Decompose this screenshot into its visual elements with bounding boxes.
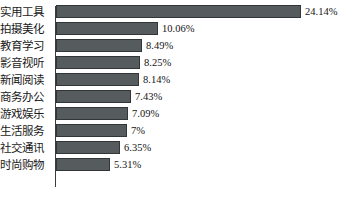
bar xyxy=(56,22,158,35)
bar-value-label: 24.14% xyxy=(305,4,337,19)
plot-area: 实用工具 24.14% 拍摄美化 10.06% 教育学习 8.49% 影音视听 xyxy=(0,4,342,192)
bar-container: 8.49% xyxy=(56,39,342,53)
bar-container: 7.09% xyxy=(56,107,342,121)
bar-container: 7% xyxy=(56,124,342,138)
bar-value-label: 7.43% xyxy=(135,89,162,104)
category-label: 时尚购物 xyxy=(0,157,51,174)
bar-row: 生活服务 7% xyxy=(0,123,342,140)
bar xyxy=(56,39,142,52)
bar-value-label: 8.25% xyxy=(144,55,171,70)
bar-container: 24.14% xyxy=(56,5,342,19)
bar-value-label: 5.31% xyxy=(114,157,141,172)
bar xyxy=(56,73,139,86)
bar-container: 8.14% xyxy=(56,73,342,87)
bar-container: 7.43% xyxy=(56,90,342,104)
category-label: 拍摄美化 xyxy=(0,21,51,38)
bar-value-label: 7% xyxy=(131,123,145,138)
bar-container: 10.06% xyxy=(56,22,342,36)
bar-row: 商务办公 7.43% xyxy=(0,89,342,106)
bar xyxy=(56,141,120,154)
bar xyxy=(56,158,110,171)
category-label: 新闻阅读 xyxy=(0,72,51,89)
bar xyxy=(56,5,301,18)
bar-row: 游戏娱乐 7.09% xyxy=(0,106,342,123)
bar-value-label: 7.09% xyxy=(132,106,159,121)
bar xyxy=(56,124,127,137)
category-label: 实用工具 xyxy=(0,4,51,21)
bar xyxy=(56,90,131,103)
bar-row: 社交通讯 6.35% xyxy=(0,140,342,157)
bar-row: 新闻阅读 8.14% xyxy=(0,72,342,89)
horizontal-bar-chart: 实用工具 24.14% 拍摄美化 10.06% 教育学习 8.49% 影音视听 xyxy=(0,0,342,200)
category-label: 游戏娱乐 xyxy=(0,106,51,123)
category-label: 商务办公 xyxy=(0,89,51,106)
category-label: 社交通讯 xyxy=(0,140,51,157)
bar-container: 8.25% xyxy=(56,56,342,70)
bar-container: 5.31% xyxy=(56,158,342,172)
bar-row: 拍摄美化 10.06% xyxy=(0,21,342,38)
category-label: 影音视听 xyxy=(0,55,51,72)
bar-row: 时尚购物 5.31% xyxy=(0,157,342,174)
bar-row: 实用工具 24.14% xyxy=(0,4,342,21)
bar xyxy=(56,107,128,120)
bar xyxy=(56,56,140,69)
bar-value-label: 6.35% xyxy=(124,140,151,155)
bar-container: 6.35% xyxy=(56,141,342,155)
bar-row: 教育学习 8.49% xyxy=(0,38,342,55)
category-label: 教育学习 xyxy=(0,38,51,55)
bar-value-label: 8.14% xyxy=(143,72,170,87)
bar-value-label: 10.06% xyxy=(162,21,194,36)
bar-value-label: 8.49% xyxy=(146,38,173,53)
bar-row: 影音视听 8.25% xyxy=(0,55,342,72)
category-label: 生活服务 xyxy=(0,123,51,140)
